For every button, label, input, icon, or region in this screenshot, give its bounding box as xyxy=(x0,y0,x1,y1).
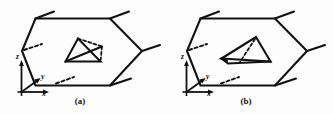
panel-b-z-arrowhead xyxy=(184,60,189,66)
panel-b-stub-left-dashed xyxy=(189,44,207,50)
panel-a-hexagon xyxy=(22,19,142,86)
figure-svg: z x y (a) xyxy=(0,0,333,114)
panel-b-x-label: x xyxy=(206,89,211,98)
panel-b-z-label: z xyxy=(180,52,184,61)
panel-b-hexagon-outline xyxy=(187,19,307,86)
panel-b-label: (b) xyxy=(241,96,252,106)
panel-b-hexagon xyxy=(187,19,307,86)
panel-a-inner-shape xyxy=(66,39,103,62)
panel-b-stub-right xyxy=(307,45,325,51)
panel-a-dashed-edge-right xyxy=(101,47,103,62)
panel-a-stub-bottom-left-dashed xyxy=(56,77,74,84)
panel-b-stub-top-right xyxy=(275,12,294,19)
panel-a-label: (a) xyxy=(75,96,86,106)
panel-b-y-label: y xyxy=(205,72,210,81)
panel-a-z-arrowhead xyxy=(19,60,24,66)
panel-a-x-label: x xyxy=(41,89,46,98)
panel-b-inner-shape xyxy=(222,37,271,64)
figure-container: z x y (a) xyxy=(0,0,333,114)
panel-a-stub-right xyxy=(142,45,160,51)
panel-a-z-label: z xyxy=(15,52,19,61)
panel-a-y-label: y xyxy=(40,72,45,81)
panel-a-stub-top-right xyxy=(110,12,129,19)
panel-a-hexagon-outline xyxy=(22,19,142,86)
panel-b-stub-bottom-left-dashed xyxy=(221,77,239,84)
panel-a-interior-edge xyxy=(66,47,103,62)
panel-b-main-triangle xyxy=(222,37,271,62)
panel-a-stub-left-dashed xyxy=(24,44,42,50)
